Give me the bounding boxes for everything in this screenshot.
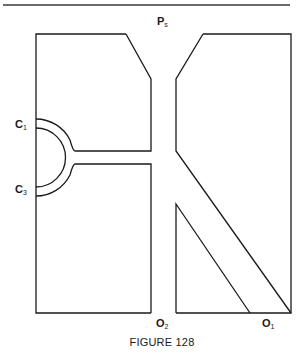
fluidic-element-diagram — [0, 0, 306, 357]
figure-caption: FIGURE 128 — [0, 336, 306, 348]
lower-channel-wall — [75, 164, 151, 313]
outer-frame — [36, 34, 291, 313]
output-splitter — [176, 204, 250, 313]
label-supply-ps: Ps — [157, 16, 168, 28]
control-inner-arc — [36, 128, 65, 187]
label-control-c1: C1 — [15, 119, 27, 131]
supply-channel-right-wall — [176, 34, 291, 313]
label-output-o2: O2 — [156, 318, 168, 330]
supply-channel-left-wall — [75, 34, 151, 151]
label-output-o1: O1 — [262, 318, 274, 330]
control-outer-arc — [36, 119, 75, 196]
label-control-c3: C3 — [15, 184, 27, 196]
